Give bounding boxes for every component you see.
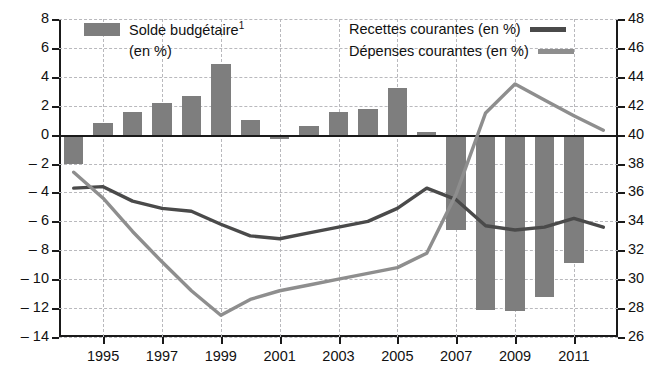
y-tick-left (52, 164, 59, 166)
plot-area: 86420– 2– 4– 6– 8– 10– 12– 14 4846444240… (59, 19, 618, 337)
y-tick-label-left: – 6 (29, 213, 49, 228)
bar-series-solde-budgetaire (59, 19, 618, 337)
x-tick (280, 337, 282, 344)
bar (299, 126, 318, 135)
x-tick (339, 337, 341, 344)
y-tick-label-left: 6 (41, 40, 49, 55)
y-tick-label-left: – 8 (29, 242, 49, 257)
x-tick (162, 337, 164, 344)
y-tick-left (52, 135, 59, 137)
y-tick-left (52, 250, 59, 252)
y-tick-label-left: – 2 (29, 156, 49, 171)
y-tick-label-right: 30 (628, 271, 644, 286)
x-tick-label: 2007 (440, 348, 472, 364)
y-tick-label-left: 2 (41, 98, 49, 113)
bar (358, 109, 377, 135)
y-tick-right (618, 337, 625, 339)
x-tick (515, 337, 517, 344)
legend-line-recettes-courantes (530, 27, 566, 32)
bar (476, 135, 495, 310)
legend-label-solde-budgetaire-unit: (en %) (129, 44, 172, 59)
y-tick-right (618, 308, 625, 310)
x-tick-label: 1999 (205, 348, 237, 364)
y-tick-left (52, 106, 59, 108)
y-tick-right (618, 135, 625, 137)
bar (93, 123, 112, 135)
legend-footnote-marker: 1 (239, 20, 245, 31)
x-tick (103, 337, 105, 344)
y-tick-label-right: 40 (628, 127, 644, 142)
y-tick-label-right: 38 (628, 156, 644, 171)
y-tick-right (618, 106, 625, 108)
legend-label-depenses-courantes: Dépenses courantes (en %) (349, 44, 529, 59)
y-tick-label-right: 42 (628, 98, 644, 113)
legend-item-recettes-courantes: Recettes courantes (en %) (349, 19, 574, 40)
y-tick-label-right: 48 (628, 11, 644, 26)
y-tick-label-right: 26 (628, 329, 644, 344)
y-tick-label-left: 0 (41, 127, 49, 142)
legend-left: Solde budgétaire1 (en %) (84, 19, 244, 62)
y-tick-left (52, 19, 59, 21)
x-tick-label: 1995 (87, 348, 119, 364)
y-tick-left (52, 192, 59, 194)
y-tick-left (52, 337, 59, 339)
legend-label-solde-budgetaire: Solde budgétaire1 (129, 21, 244, 37)
y-tick-left (52, 279, 59, 281)
bar (446, 135, 465, 230)
y-tick-label-right: 44 (628, 69, 644, 84)
legend-line-depenses-courantes (538, 49, 574, 54)
legend-right: Recettes courantes (en %) Dépenses coura… (349, 19, 574, 62)
y-tick-right (618, 77, 625, 79)
x-tick-label: 2003 (322, 348, 354, 364)
y-tick-label-right: 32 (628, 242, 644, 257)
x-tick (574, 337, 576, 344)
x-tick (397, 337, 399, 344)
y-tick-left (52, 48, 59, 50)
bar (211, 64, 230, 135)
y-tick-label-left: – 10 (21, 271, 49, 286)
y-tick-label-left: – 12 (21, 300, 49, 315)
y-tick-left (52, 308, 59, 310)
x-tick-label: 2009 (499, 348, 531, 364)
legend-swatch-solde-budgetaire (84, 23, 120, 36)
zero-baseline (59, 135, 618, 137)
bar (388, 88, 407, 134)
y-tick-right (618, 19, 625, 21)
x-tick-label: 2011 (558, 348, 589, 364)
chart-container: 86420– 2– 4– 6– 8– 10– 12– 14 4846444240… (0, 0, 658, 379)
bar (64, 135, 83, 164)
y-tick-left (52, 77, 59, 79)
x-tick (221, 337, 223, 344)
y-tick-label-right: 28 (628, 300, 644, 315)
legend-item-depenses-courantes: Dépenses courantes (en %) (349, 40, 574, 62)
bar (152, 103, 171, 135)
y-tick-right (618, 164, 625, 166)
y-tick-label-left: 8 (41, 11, 49, 26)
bar (329, 112, 348, 135)
legend-label-solde-budgetaire-text: Solde budgétaire (129, 22, 239, 38)
y-tick-label-right: 46 (628, 40, 644, 55)
bar (123, 112, 142, 135)
x-tick-label: 2005 (381, 348, 413, 364)
y-tick-right (618, 48, 625, 50)
y-tick-right (618, 192, 625, 194)
y-tick-label-left: 4 (41, 69, 49, 84)
x-tick-label: 1997 (146, 348, 178, 364)
y-tick-right (618, 279, 625, 281)
legend-item-solde-budgetaire: Solde budgétaire1 (84, 19, 244, 40)
x-tick (456, 337, 458, 344)
y-tick-left (52, 221, 59, 223)
legend-item-solde-budgetaire-line2: (en %) (84, 40, 244, 62)
y-tick-label-left: – 4 (29, 184, 49, 199)
legend-label-recettes-courantes: Recettes courantes (en %) (349, 22, 521, 37)
y-tick-label-left: – 14 (21, 329, 49, 344)
bar (182, 96, 201, 135)
bar (241, 120, 260, 134)
y-tick-right (618, 250, 625, 252)
y-tick-label-right: 36 (628, 184, 644, 199)
y-tick-label-right: 34 (628, 213, 644, 228)
bar (535, 135, 554, 297)
y-tick-right (618, 221, 625, 223)
x-tick-label: 2001 (264, 348, 296, 364)
bar (505, 135, 524, 311)
